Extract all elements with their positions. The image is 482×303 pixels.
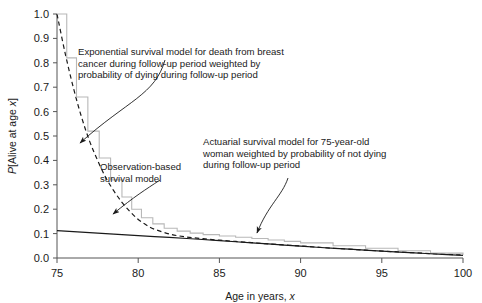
- y-axis-title: P[Alive at age x]: [6, 98, 18, 174]
- x-tick-label: 75: [51, 267, 63, 279]
- y-tick-label: 0.4: [34, 154, 49, 166]
- x-tick-label: 95: [376, 267, 388, 279]
- y-tick-label: 0.5: [34, 130, 49, 142]
- x-axis-title: Age in years, x: [225, 290, 295, 302]
- annotation-line: cancer during follow-up period weighted …: [78, 58, 261, 69]
- survival-curves-chart: 0.00.10.20.30.40.50.60.70.80.91.07580859…: [0, 0, 482, 303]
- chart-figure: 0.00.10.20.30.40.50.60.70.80.91.07580859…: [0, 0, 482, 303]
- annotation-line: during follow-up period: [203, 159, 300, 170]
- annotation-line: Exponential survival model for death fro…: [78, 46, 284, 57]
- svg-text:P[Alive at age x]: P[Alive at age x]: [6, 98, 18, 174]
- y-tick-label: 0.9: [34, 32, 49, 44]
- annotation-observation-note: Observation-basedsurvival model: [100, 161, 181, 184]
- y-tick-label: 0.1: [34, 228, 49, 240]
- x-tick-label: 85: [213, 267, 225, 279]
- y-tick-label: 0.7: [34, 81, 49, 93]
- annotation-actuarial-note: Actuarial survival model for 75-year-old…: [202, 136, 386, 170]
- annotation-exponential-note: Exponential survival model for death fro…: [78, 46, 284, 80]
- annotation-line: woman weighted by probability of not dyi…: [202, 148, 386, 159]
- series-path-2: [57, 231, 463, 256]
- annotation-line: probability of dying during follow-up pe…: [78, 69, 258, 80]
- y-tick-label: 0.2: [34, 203, 49, 215]
- annotation-line: survival model: [100, 173, 161, 184]
- annotation-line: Observation-based: [100, 161, 181, 172]
- x-tick-label: 80: [132, 267, 144, 279]
- y-tick-label: 0.6: [34, 106, 49, 118]
- x-tick-label: 100: [454, 267, 472, 279]
- annotation-line: Actuarial survival model for 75-year-old: [203, 136, 369, 147]
- arrow-to-actuarial-curve: [257, 178, 288, 233]
- y-tick-label: 0.3: [34, 179, 49, 191]
- y-tick-label: 1.0: [34, 8, 49, 20]
- y-tick-label: 0.8: [34, 57, 49, 69]
- y-tick-label: 0.0: [34, 252, 49, 264]
- x-tick-label: 90: [294, 267, 306, 279]
